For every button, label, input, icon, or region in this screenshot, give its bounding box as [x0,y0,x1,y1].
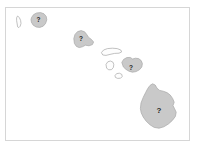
island-molokai[interactable] [101,48,121,55]
question-marker-oahu: ? [79,35,83,42]
question-marker-kauai: ? [37,16,41,23]
question-marker-hawaii: ? [157,106,162,115]
island-lanai[interactable] [106,61,114,70]
island-oahu[interactable] [74,31,94,48]
islands-layer [17,13,177,129]
island-kahoolawe[interactable] [115,73,122,78]
map-canvas: ???? [0,0,198,150]
question-marker-maui: ? [129,64,133,71]
hawaii-islands-map: ???? [0,0,198,150]
island-niihau[interactable] [17,16,21,28]
